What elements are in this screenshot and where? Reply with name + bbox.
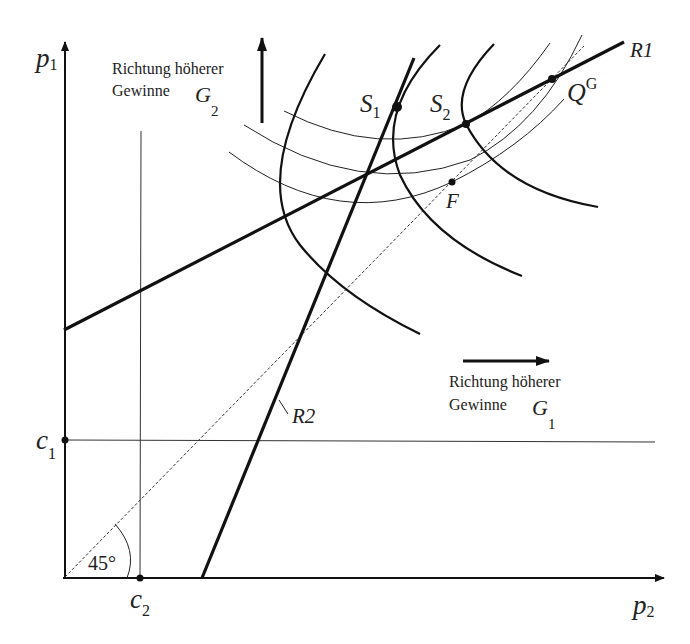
g1-symbol: G1 (532, 395, 555, 432)
x-axis-label: p2 (631, 590, 655, 620)
angle-arc (115, 524, 131, 578)
isoprofit-g2-curve-2 (244, 35, 582, 174)
c2-line (140, 131, 141, 578)
c1-label: c1 (36, 425, 56, 462)
qg-label: QG (567, 75, 598, 107)
isoprofit-g1-curve-3 (462, 44, 598, 207)
bertrand-reaction-diagram: p1 p2 c1 c2 45° R1 R2 S1 S2 QG F Richtun… (0, 0, 690, 644)
diagram-canvas: p1 p2 c1 c2 45° R1 R2 S1 S2 QG F Richtun… (0, 0, 690, 644)
point-qg (548, 75, 556, 83)
c2-label: c2 (130, 584, 150, 619)
r1-label: R1 (629, 38, 653, 62)
r2-leader-line (279, 400, 288, 414)
reaction-curve-r2 (202, 58, 414, 578)
y-axis-label: p1 (34, 43, 58, 73)
g2-symbol: G2 (195, 82, 218, 119)
c1-line (65, 440, 655, 442)
g1-annotation-line2: Gewinne (449, 396, 507, 413)
g2-annotation-line2: Gewinne (112, 82, 170, 99)
c2-point (137, 575, 144, 582)
c1-point (62, 437, 69, 444)
r2-label: R2 (291, 404, 316, 428)
g1-annotation-line1: Richtung höherer (449, 373, 561, 391)
isoprofit-g1-curve-2 (393, 45, 522, 276)
s2-label: S2 (430, 90, 451, 123)
g2-annotation-line1: Richtung höherer (112, 60, 224, 78)
point-s2 (462, 120, 470, 128)
point-f (449, 179, 456, 186)
point-s1 (392, 102, 402, 112)
f-label: F (445, 189, 459, 213)
diagonal-45-line (65, 46, 584, 577)
angle-label: 45° (88, 552, 116, 574)
s1-label: S1 (360, 90, 381, 121)
